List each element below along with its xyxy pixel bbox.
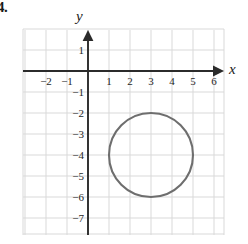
grid-lines <box>23 29 224 235</box>
x-tick-label-6: 6 <box>211 76 217 87</box>
y-tick-label-neg4: −4 <box>66 150 84 161</box>
y-tick-label-neg7: −7 <box>66 213 84 224</box>
coordinate-plane-svg <box>0 0 248 244</box>
y-tick-label-neg2: −2 <box>66 108 84 119</box>
y-tick-label-neg5: −5 <box>66 171 84 182</box>
x-axis-label: x <box>229 62 236 77</box>
x-tick-label-neg1: −1 <box>61 76 73 87</box>
y-tick-label-neg3: −3 <box>66 129 84 140</box>
x-tick-label-2: 2 <box>127 76 133 87</box>
x-tick-label-1: 1 <box>106 76 112 87</box>
y-axis-label: y <box>76 9 83 24</box>
y-axis <box>83 30 94 235</box>
x-tick-label-4: 4 <box>169 76 175 87</box>
x-tick-label-3: 3 <box>148 76 154 87</box>
problem-number-label: 4. <box>0 0 7 15</box>
y-tick-label-1: 1 <box>72 45 84 56</box>
x-tick-label-5: 5 <box>190 76 196 87</box>
graph-figure: 4. <box>0 0 248 244</box>
y-tick-label-neg6: −6 <box>66 192 84 203</box>
x-tick-label-neg2: −2 <box>40 76 52 87</box>
y-tick-label-neg1: −1 <box>66 87 84 98</box>
